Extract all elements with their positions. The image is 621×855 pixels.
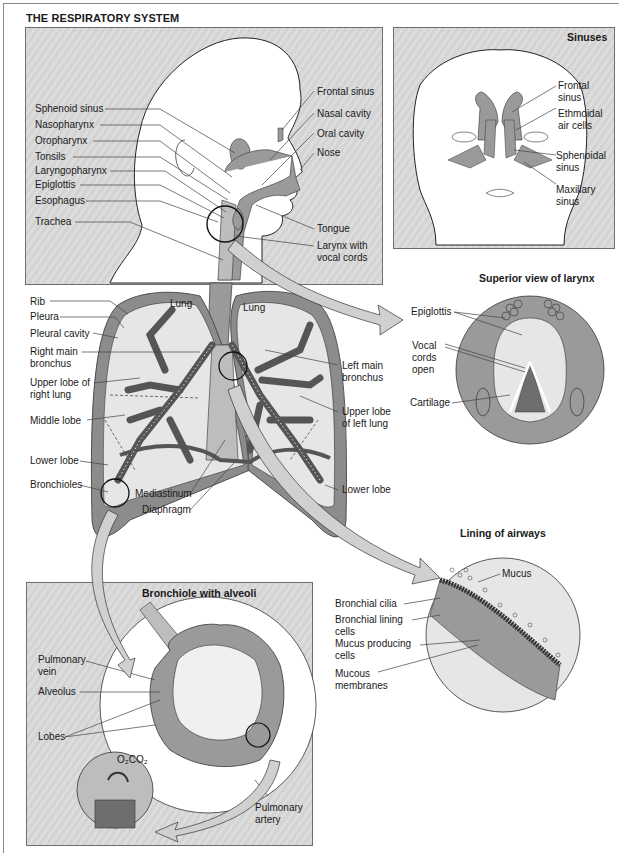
larynx-view-title: Superior view of larynx xyxy=(479,272,595,284)
label-lobes: Lobes xyxy=(38,731,65,743)
label-vocal-cords-open: Vocal cords open xyxy=(412,340,436,376)
label-rib: Rib xyxy=(30,296,45,308)
label-nose: Nose xyxy=(317,147,340,159)
label-diaphragm: Diaphragm xyxy=(142,504,191,516)
label-upper-lobe-right: Upper lobe of right lung xyxy=(30,377,90,401)
label-oropharynx: Oropharynx xyxy=(35,135,87,147)
sinuses-title: Sinuses xyxy=(567,31,607,43)
label-mucus: Mucus xyxy=(502,568,531,580)
larynx-superior-illustration xyxy=(456,296,604,444)
label-mucus-producing-cells: Mucus producing cells xyxy=(335,638,411,662)
label-esophagus: Esophagus xyxy=(35,195,85,207)
label-alveolus: Alveolus xyxy=(38,686,76,698)
label-gas-exchange: O₂CO₂ xyxy=(117,754,148,766)
label-nasopharynx: Nasopharynx xyxy=(35,119,94,131)
label-sphenoidal-sinus: Sphenoidal sinus xyxy=(556,150,606,174)
label-larynx-vocal-cords: Larynx with vocal cords xyxy=(317,240,368,264)
label-pleural-cavity: Pleural cavity xyxy=(30,328,89,340)
label-middle-lobe: Middle lobe xyxy=(30,415,81,427)
label-tonsils: Tonsils xyxy=(35,151,66,163)
label-maxillary-sinus: Maxillary sinus xyxy=(556,184,595,208)
label-laryngopharynx: Laryngopharynx xyxy=(35,165,107,177)
airway-lining-title: Lining of airways xyxy=(460,527,546,539)
label-pulmonary-vein: Pulmonary vein xyxy=(38,654,86,678)
label-lung-left: Lung xyxy=(243,302,265,314)
label-nasal-cavity: Nasal cavity xyxy=(317,108,371,120)
label-lung-right: Lung xyxy=(170,298,192,310)
head-profile-illustration xyxy=(110,38,302,283)
label-upper-lobe-left: Upper lobe of left lung xyxy=(342,406,391,430)
label-lower-lobe-left: Lower lobe xyxy=(342,484,391,496)
label-pleura: Pleura xyxy=(30,311,59,323)
label-pulmonary-artery: Pulmonary artery xyxy=(255,802,303,826)
label-bronchioles: Bronchioles xyxy=(30,479,82,491)
label-frontal-sinus: Frontal sinus xyxy=(317,86,374,98)
label-trachea: Trachea xyxy=(35,216,71,228)
label-ethmoidal-air-cells: Ethmoidal air cells xyxy=(558,108,602,132)
label-bronchial-lining-cells: Bronchial lining cells xyxy=(335,614,403,638)
label-cartilage: Cartilage xyxy=(410,397,450,409)
label-tongue: Tongue xyxy=(317,223,350,235)
label-epiglottis: Epiglottis xyxy=(35,179,76,191)
label-left-main-bronchus: Left main bronchus xyxy=(342,360,383,384)
label-epiglottis-superior: Epiglottis xyxy=(411,306,452,318)
alveoli-title: Bronchiole with alveoli xyxy=(142,587,256,599)
label-sphenoid-sinus: Sphenoid sinus xyxy=(35,103,103,115)
label-mucous-membranes: Mucous membranes xyxy=(335,668,388,692)
label-lower-lobe-right: Lower lobe xyxy=(30,455,79,467)
label-right-main-bronchus: Right main bronchus xyxy=(30,346,78,370)
label-mediastinum: Mediastinum xyxy=(135,488,192,500)
label-oral-cavity: Oral cavity xyxy=(317,128,364,140)
label-frontal-sinus-face: Frontal sinus xyxy=(558,80,589,104)
label-bronchial-cilia: Bronchial cilia xyxy=(335,598,397,610)
sinuses-face-illustration xyxy=(413,50,587,245)
airway-lining-illustration xyxy=(426,558,580,712)
